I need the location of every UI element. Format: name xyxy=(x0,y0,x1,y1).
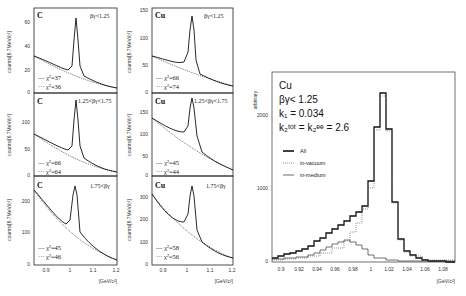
legend-in-medium: in-medium xyxy=(300,172,326,178)
svg-text:1.75<βγ: 1.75<βγ xyxy=(90,183,110,189)
panel-cu-row3: Cu 1.75<βγ — χ²=58 ··· χ²=56 0 100 200 3… xyxy=(140,176,236,284)
x-axis-label: [GeV/c²] xyxy=(99,278,118,284)
svg-text:150: 150 xyxy=(140,109,149,115)
svg-text:1.1: 1.1 xyxy=(90,267,97,273)
svg-text:100: 100 xyxy=(22,119,31,125)
svg-text:0.98: 0.98 xyxy=(348,266,358,272)
svg-text:Cu: Cu xyxy=(155,181,166,190)
svg-text:C: C xyxy=(37,97,43,106)
svg-text:··· χ²=74: ··· χ²=74 xyxy=(156,83,180,90)
panel-c-row2: C 1.25<βγ<1.75 — χ²=66 ··· χ²=64 0 50 10… xyxy=(22,93,117,178)
svg-text:— χ²=45: — χ²=45 xyxy=(155,159,179,166)
svg-text:1.1: 1.1 xyxy=(207,267,214,273)
svg-text:40: 40 xyxy=(24,43,30,49)
svg-text:0: 0 xyxy=(27,172,30,178)
svg-text:Cu: Cu xyxy=(155,97,166,106)
svg-text:1.2: 1.2 xyxy=(113,267,120,273)
svg-text:1.25<βγ<1.75: 1.25<βγ<1.75 xyxy=(78,98,111,104)
panel-cu-row2: Cu 1.25<βγ<1.75 — χ²=45 ··· χ²=44 0 50 1… xyxy=(140,93,233,178)
svg-text:0: 0 xyxy=(265,258,268,264)
svg-text:2000: 2000 xyxy=(257,112,268,118)
svg-text:1.06: 1.06 xyxy=(420,266,430,272)
svg-text:[GeV/c²]: [GeV/c²] xyxy=(215,278,234,284)
svg-text:60: 60 xyxy=(24,19,30,25)
figure-canvas: C βγ<1.25 — χ²=37 ··· χ²=36 0 20 40 60 C… xyxy=(0,0,466,296)
panel-c-row1: C βγ<1.25 — χ²=37 ··· χ²=36 0 20 40 60 xyxy=(24,8,117,95)
svg-text:0.9: 0.9 xyxy=(160,267,167,273)
svg-text:100: 100 xyxy=(22,229,31,235)
svg-text:C: C xyxy=(37,181,43,190)
svg-text:1: 1 xyxy=(69,267,72,273)
x-axis-label: [GeV/c²] xyxy=(437,278,456,284)
range-label: βγ<1.25 xyxy=(90,13,110,19)
svg-text:0.92: 0.92 xyxy=(294,266,304,272)
chi2-dotted: ··· χ²=36 xyxy=(38,83,62,90)
svg-text:0: 0 xyxy=(145,261,148,267)
svg-text:··· χ²=56: ··· χ²=56 xyxy=(156,253,180,260)
svg-text:150: 150 xyxy=(140,7,149,13)
param-k1: k₁ = 0.034 xyxy=(279,108,324,119)
y-axis-label: counts/[6.7MeV/c²] xyxy=(6,31,12,73)
title-range: βγ< 1.25 xyxy=(279,94,318,105)
svg-text:0: 0 xyxy=(27,261,30,267)
svg-text:50: 50 xyxy=(142,62,148,68)
svg-text:50: 50 xyxy=(142,153,148,159)
svg-text:counts/[6.7MeV/c²]: counts/[6.7MeV/c²] xyxy=(6,199,12,241)
svg-text:counts/[6.7MeV/c²]: counts/[6.7MeV/c²] xyxy=(126,199,132,241)
legend-in-vacuum: in-vacuum xyxy=(300,160,326,166)
svg-text:counts/[6.7MeV/c²]: counts/[6.7MeV/c²] xyxy=(126,31,132,73)
svg-text:··· χ²=44: ··· χ²=44 xyxy=(156,168,180,175)
svg-text:100: 100 xyxy=(140,35,149,41)
svg-text:··· χ²=64: ··· χ²=64 xyxy=(38,168,62,175)
svg-text:20: 20 xyxy=(24,67,30,73)
svg-text:··· χ²=46: ··· χ²=46 xyxy=(38,253,62,260)
svg-text:100: 100 xyxy=(140,131,149,137)
svg-text:50: 50 xyxy=(24,146,30,152)
svg-text:counts/[6.7MeV/c²]: counts/[6.7MeV/c²] xyxy=(6,114,12,156)
svg-text:0.96: 0.96 xyxy=(330,266,340,272)
svg-text:1.02: 1.02 xyxy=(384,266,394,272)
svg-text:0.9: 0.9 xyxy=(278,266,285,272)
y-axis-label: arbitrary xyxy=(252,90,258,109)
svg-text:0: 0 xyxy=(27,89,30,95)
svg-text:1.04: 1.04 xyxy=(402,266,412,272)
panel-c-row3: C 1.75<βγ — χ²=45 ··· χ²=46 0 100 200 0.… xyxy=(22,176,120,284)
svg-text:Cu: Cu xyxy=(155,11,166,20)
svg-text:— χ²=45: — χ²=45 xyxy=(37,244,61,251)
chi2-solid: — χ²=37 xyxy=(37,74,62,81)
svg-text:— χ²=66: — χ²=66 xyxy=(37,159,62,166)
svg-text:200: 200 xyxy=(22,198,31,204)
svg-text:0: 0 xyxy=(145,172,148,178)
svg-text:1: 1 xyxy=(370,266,373,272)
legend-all: All xyxy=(300,148,306,154)
svg-text:1.25<βγ<1.75: 1.25<βγ<1.75 xyxy=(194,98,227,104)
series-in-vacuum xyxy=(272,96,455,260)
svg-text:1000: 1000 xyxy=(257,185,268,191)
svg-text:1.75<βγ: 1.75<βγ xyxy=(206,183,226,189)
svg-text:counts/[6.7MeV/c²]: counts/[6.7MeV/c²] xyxy=(126,114,132,156)
right-histogram: arbitrary 0 1000 2000 Cu βγ< 1.25 k₁ = 0… xyxy=(252,72,456,284)
title-target: Cu xyxy=(279,80,292,91)
svg-text:βγ<1.25: βγ<1.25 xyxy=(204,13,224,19)
svg-text:100: 100 xyxy=(140,239,149,245)
svg-text:0: 0 xyxy=(145,89,148,95)
svg-text:1.08: 1.08 xyxy=(438,266,448,272)
svg-text:1: 1 xyxy=(186,267,189,273)
svg-text:0.9: 0.9 xyxy=(43,267,50,273)
svg-text:— χ²=66: — χ²=66 xyxy=(155,74,180,81)
svg-text:0.94: 0.94 xyxy=(312,266,322,272)
target-label: C xyxy=(37,11,43,20)
svg-text:300: 300 xyxy=(140,194,149,200)
svg-text:1.2: 1.2 xyxy=(229,267,236,273)
param-k2: k₂ᵗᵒᵗ = k₂ᵉᵉ = 2.6 xyxy=(279,122,349,133)
svg-text:— χ²=58: — χ²=58 xyxy=(155,244,179,251)
panel-cu-row1: Cu βγ<1.25 — χ²=66 ··· χ²=74 0 50 100 15… xyxy=(140,7,233,95)
svg-text:200: 200 xyxy=(140,216,149,222)
